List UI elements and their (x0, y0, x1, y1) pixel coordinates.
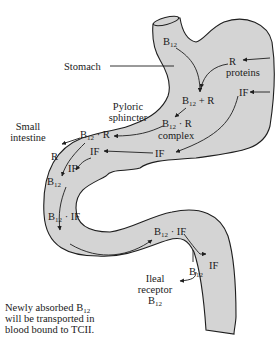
label-ileal-receptor: IlealreceptorB12 (132, 273, 178, 306)
label-b12-r-intestine: B12 · R (80, 129, 110, 140)
label-b12-r: B12 · R (162, 118, 192, 129)
absorption-note: Newly absorbed B12will be transported in… (5, 302, 95, 335)
label-b12-if-2: B12 · IF (154, 226, 186, 237)
label-b12-ileum: B12 (189, 266, 203, 277)
label-complex: complex (158, 130, 194, 141)
label-stomach: Stomach (64, 61, 101, 72)
b12-absorption-diagram: B12 Stomach R proteins IF B12 + R Pylori… (0, 0, 276, 342)
label-if-duodenum: IF (155, 148, 164, 159)
label-r-free: R (51, 151, 58, 162)
label-proteins: proteins (226, 67, 260, 78)
label-b12-free: B12 (47, 176, 61, 187)
label-if-released: IF (209, 260, 218, 271)
label-b12-if-1: B12 · IF (48, 211, 80, 222)
label-if-intestine: IF (90, 146, 99, 157)
label-if-free: IF (68, 163, 77, 174)
label-if-stomach: IF (239, 87, 248, 98)
label-pyloric-sphincter: Pyloricsphincter (103, 101, 153, 123)
label-b12-plus-r: B12 + R (182, 95, 214, 106)
label-small-intestine: Smallintestine (6, 121, 50, 143)
label-b12-esophagus: B12 (163, 36, 177, 47)
label-r: R (229, 56, 236, 67)
